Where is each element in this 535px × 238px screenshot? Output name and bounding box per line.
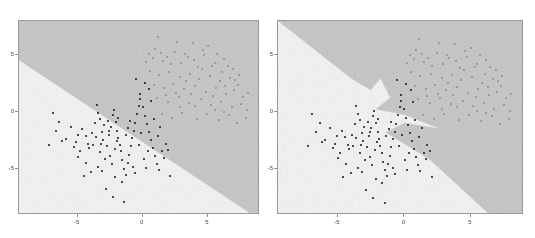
data-point: [470, 47, 472, 49]
data-point: [365, 189, 367, 191]
data-point: [386, 175, 388, 177]
data-point: [150, 100, 152, 102]
data-point: [246, 109, 248, 111]
data-point: [463, 69, 465, 71]
data-point: [499, 123, 501, 125]
data-point: [83, 175, 85, 177]
data-point: [392, 138, 394, 140]
data-point: [123, 201, 125, 203]
data-point: [242, 96, 244, 98]
data-point: [337, 157, 339, 159]
x-tick-label: 5: [468, 219, 471, 225]
data-point: [406, 62, 408, 64]
data-point: [379, 145, 381, 147]
data-point: [154, 48, 156, 50]
data-point: [370, 127, 372, 129]
data-point: [161, 113, 163, 115]
x-tick: [77, 214, 78, 217]
data-point: [481, 82, 483, 84]
data-point: [456, 106, 458, 108]
data-point: [157, 135, 159, 137]
data-point: [413, 148, 415, 150]
data-point: [210, 104, 212, 106]
data-point: [336, 135, 338, 137]
data-point: [411, 140, 413, 142]
data-point: [488, 94, 490, 96]
data-point: [414, 85, 416, 87]
data-point: [75, 141, 77, 143]
data-point: [387, 163, 389, 165]
data-point: [209, 75, 211, 77]
data-point: [55, 130, 57, 132]
data-point: [405, 83, 407, 85]
data-point: [500, 85, 502, 87]
data-point: [468, 114, 470, 116]
data-point: [419, 75, 421, 77]
data-point: [129, 120, 131, 122]
data-point: [77, 156, 79, 158]
data-point: [185, 80, 187, 82]
data-point: [216, 53, 218, 55]
data-point: [460, 79, 462, 81]
data-point: [88, 147, 90, 149]
data-point: [73, 146, 75, 148]
data-point: [130, 145, 132, 147]
data-point: [357, 113, 359, 115]
data-point: [153, 84, 155, 86]
data-point: [193, 59, 195, 61]
data-point: [348, 148, 350, 150]
data-point: [134, 172, 136, 174]
data-point: [172, 83, 174, 85]
data-point: [163, 87, 165, 89]
y-tick: [274, 111, 277, 112]
data-point: [133, 130, 135, 132]
data-point: [134, 122, 136, 124]
data-point: [446, 54, 448, 56]
data-point: [401, 134, 403, 136]
data-point: [52, 112, 54, 114]
data-point: [148, 53, 150, 55]
data-point: [115, 121, 117, 123]
data-point: [99, 118, 101, 120]
data-point: [156, 97, 158, 99]
data-point: [165, 143, 167, 145]
data-point: [311, 113, 313, 115]
data-point: [101, 170, 103, 172]
data-point: [125, 174, 127, 176]
data-point: [417, 98, 419, 100]
data-point: [389, 155, 391, 157]
data-point: [223, 58, 225, 60]
data-point: [412, 101, 414, 103]
data-point: [105, 188, 107, 190]
data-point: [426, 95, 428, 97]
data-point: [361, 171, 363, 173]
data-point: [192, 42, 194, 44]
x-tick-label: 0: [402, 219, 405, 225]
data-point: [371, 164, 373, 166]
data-point: [359, 119, 361, 121]
data-point: [398, 145, 400, 147]
data-point: [223, 111, 225, 113]
data-point: [161, 150, 163, 152]
data-point: [219, 80, 221, 82]
data-point: [77, 134, 79, 136]
data-point: [372, 115, 374, 117]
data-point: [85, 162, 87, 164]
data-point: [229, 77, 231, 79]
data-point: [198, 78, 200, 80]
data-point: [447, 82, 449, 84]
data-point: [211, 65, 213, 67]
data-point: [227, 65, 229, 67]
data-point: [214, 62, 216, 64]
plot-area-right: [277, 20, 523, 214]
data-point: [167, 101, 169, 103]
data-point: [355, 105, 357, 107]
y-tick-label: -5: [264, 165, 273, 171]
data-point: [160, 52, 162, 54]
data-point: [372, 197, 374, 199]
data-point: [152, 57, 154, 59]
data-point: [431, 176, 433, 178]
y-tick-label: 0: [5, 108, 14, 114]
data-point: [232, 68, 234, 70]
data-point: [484, 73, 486, 75]
